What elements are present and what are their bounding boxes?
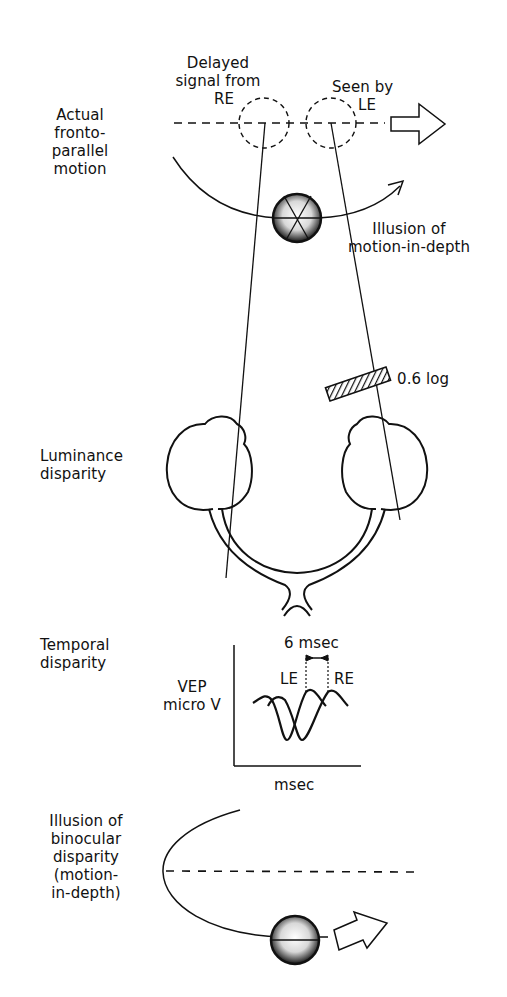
panel-luminance-disparity [167,416,427,616]
label-re-curve: RE [334,670,354,688]
le-vep-curve [253,690,326,740]
sightline-re [226,123,265,578]
re-vep-curve [268,691,348,740]
label-luminance-disparity: Luminance disparity [40,447,123,483]
label-msec-axis: msec [274,776,314,794]
optic-chiasm [284,606,310,616]
ball-top [273,194,321,242]
panel-actual-motion [173,98,445,578]
vep-plot [234,645,361,766]
sightline-le [331,123,400,520]
arc-arrowhead-icon [388,181,403,195]
label-temporal-disparity: Temporal disparity [40,636,109,672]
ball-bottom [271,916,320,964]
label-le-curve: LE [280,670,298,688]
depth-arrow-icon [334,912,387,950]
label-filter: 0.6 log [397,370,449,388]
depth-reference-line [166,871,416,872]
label-illusion-motion-in-depth: Illusion of motion-in-depth [334,220,484,256]
label-delayed-signal: Delayed signal from RE [166,54,270,108]
label-vep-axis: VEP micro V [152,678,232,714]
label-delay: 6 msec [284,634,339,652]
label-actual-motion: Actual fronto- parallel motion [40,106,120,178]
nd-filter [325,367,390,401]
label-seen-by-le: Seen by LE [332,78,412,114]
optic-nerve-outer [209,509,385,610]
label-binocular-illusion: Illusion of binocular disparity (motion-… [36,812,136,902]
